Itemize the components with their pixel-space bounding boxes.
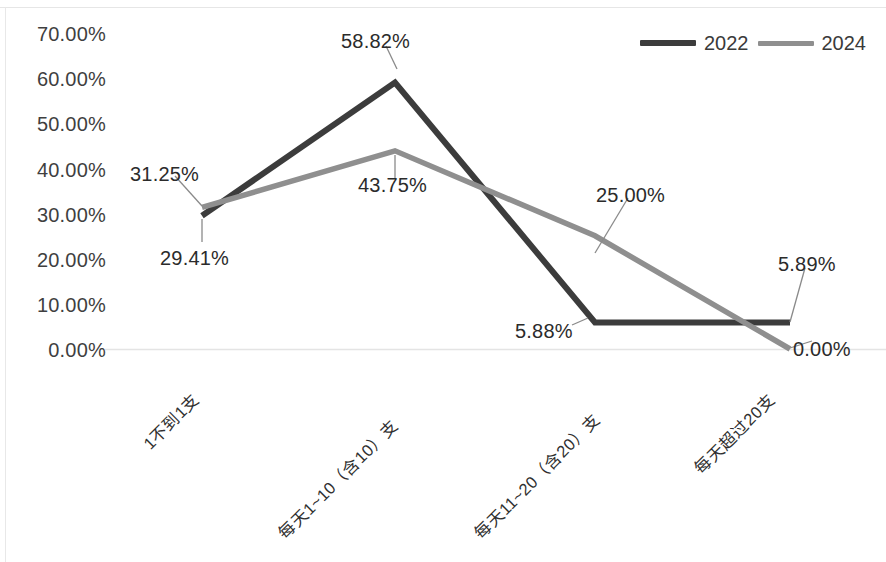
data-label-2022-cat3: 5.88% <box>515 320 573 343</box>
legend-swatch-2024 <box>758 41 814 46</box>
legend-swatch-2022 <box>640 40 696 46</box>
data-label-2022-cat1: 29.41% <box>160 247 229 270</box>
data-label-2022-cat2: 58.82% <box>341 30 410 53</box>
chart-legend: 2022 2024 <box>640 33 866 53</box>
legend-label-2022: 2022 <box>704 33 749 53</box>
legend-item-2024[interactable]: 2024 <box>758 33 867 53</box>
plot-area <box>0 0 886 562</box>
data-label-2024-cat4: 0.00% <box>793 338 851 361</box>
data-label-2022-cat4: 5.89% <box>778 253 836 276</box>
line-chart: 70.00% 60.00% 50.00% 40.00% 30.00% 20.00… <box>0 0 886 562</box>
legend-item-2022[interactable]: 2022 <box>640 33 749 53</box>
data-label-2024-cat2: 43.75% <box>358 174 427 197</box>
data-label-2024-cat1: 31.25% <box>130 163 199 186</box>
legend-label-2024: 2024 <box>822 33 867 53</box>
data-label-2024-cat3: 25.00% <box>596 184 665 207</box>
series-line-2022 <box>202 83 790 323</box>
series-line-2024 <box>202 151 790 349</box>
